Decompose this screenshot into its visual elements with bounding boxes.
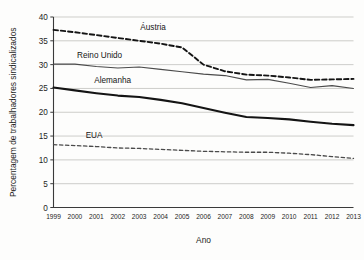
x-tick-label-2001: 2001 [89,213,104,220]
y-axis-title: Percentagem de trabalhadores sindicaliza… [8,28,18,197]
y-axis-group: 0510152025303540 [39,13,54,213]
series-label-eua: EUA [86,131,103,140]
x-axis-group: 1999200020012002200320042005200620072008… [46,208,361,221]
x-tick-label-2011: 2011 [304,213,319,220]
x-tick-label-2006: 2006 [196,213,211,220]
y-tick-label-15: 15 [39,132,49,141]
y-tick-label-5: 5 [43,180,48,189]
x-tick-label-2005: 2005 [175,213,190,220]
series-line-eua [54,145,354,159]
x-tick-label-2010: 2010 [282,213,297,220]
union-membership-line-chart: 0510152025303540 19992000200120022003200… [0,0,364,260]
y-tick-label-35: 35 [39,37,49,46]
y-tick-label-10: 10 [39,156,49,165]
x-tick-label-2009: 2009 [260,213,275,220]
x-tick-label-2002: 2002 [110,213,125,220]
x-tick-label-2007: 2007 [218,213,233,220]
series-labels-group: ÁustriaReino UnidoAlemanhaEUA [77,22,166,140]
x-tick-label-1999: 1999 [46,213,61,220]
x-tick-label-2008: 2008 [239,213,254,220]
series-label-reino-unido: Reino Unido [77,51,123,60]
x-axis-title: Ano [196,235,211,245]
y-tick-label-30: 30 [39,61,49,70]
y-tick-label-20: 20 [39,108,49,117]
y-tick-label-25: 25 [39,84,49,93]
series-label-áustria: Áustria [140,22,166,32]
x-tick-label-2013: 2013 [346,213,361,220]
x-tick-label-2012: 2012 [325,213,340,220]
series-label-alemanha: Alemanha [94,76,131,85]
y-tick-label-40: 40 [39,13,49,22]
series-line-alemanha [54,87,354,125]
y-tick-label-0: 0 [43,204,48,213]
x-tick-label-2003: 2003 [132,213,147,220]
chart-canvas: 0510152025303540 19992000200120022003200… [0,0,364,260]
x-tick-label-2004: 2004 [153,213,168,220]
x-tick-label-2000: 2000 [68,213,83,220]
gridlines-group [54,17,354,184]
